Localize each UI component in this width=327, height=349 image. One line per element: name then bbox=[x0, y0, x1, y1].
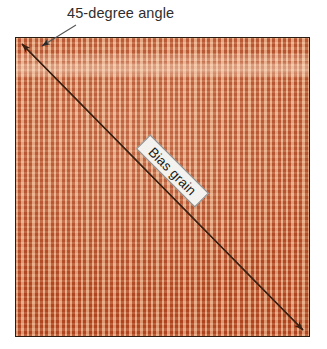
angle-caption: 45-degree angle bbox=[67, 5, 174, 21]
bias-grain-arrow-tail bbox=[22, 44, 303, 330]
angle-leader-line bbox=[42, 25, 76, 46]
figure-canvas: 45-degree angle Bias grain bbox=[0, 0, 327, 349]
